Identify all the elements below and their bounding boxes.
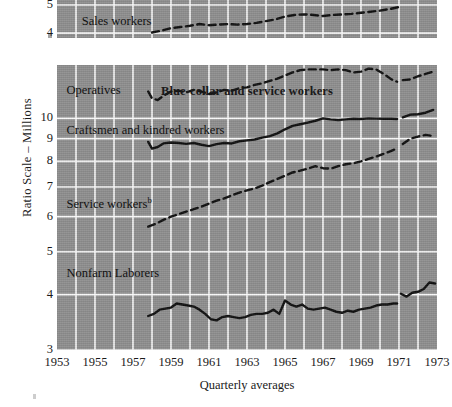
series-label-craftsmen-and-kindred-workers: Craftsmen and kindred workers [67,123,225,138]
y-tick-label: 4 [27,288,53,301]
y-tick-label: 7 [27,180,53,193]
series-label-service-workers: Service workersb [67,195,152,212]
y-tick-label: 3 [27,343,53,356]
scan-speck [48,34,52,38]
footnote-marker: b [147,195,151,205]
x-axis-caption: Quarterly averages [57,378,437,393]
panel-title-blue-collar: Blue-collar and service workers [161,84,333,99]
scan-speck [33,394,36,399]
x-tick-label: 1973 [415,355,452,370]
series-label-operatives: Operatives [67,83,121,98]
y-axis-ticks-bottom: 109876543 [25,0,53,407]
y-tick-label: 10 [27,111,53,124]
y-tick-label: 6 [27,210,53,223]
y-tick-label: 8 [27,154,53,167]
series-label-sales-workers: Sales workers [82,14,152,29]
series-label-nonfarm-laborers: Nonfarm Laborers [67,266,160,281]
y-tick-label: 9 [27,132,53,145]
y-tick-label: 5 [27,245,53,258]
figure-container: Ratio Scale – Millions 54 109876543 1953… [0,0,452,407]
